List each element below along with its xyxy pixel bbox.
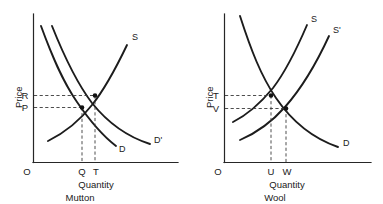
wool-chart-svg: Price T V O U W S S' D Quantity Wool: [191, 0, 383, 204]
wool-equilibrium-point-2: [284, 106, 289, 111]
mutton-curve-label-s: S: [132, 32, 138, 42]
wool-equilibrium-point-1: [269, 93, 274, 98]
wool-demand-curve-d: [240, 16, 338, 147]
mutton-curve-label-d: D: [119, 144, 126, 154]
economics-supply-demand-figure: Price R P O Q T S D D' Quantity Mutton: [0, 0, 383, 204]
wool-x-tick-u: U: [268, 166, 275, 177]
mutton-y-tick-r: R: [22, 90, 29, 101]
wool-curve-label-s-prime: S': [333, 25, 341, 35]
mutton-x-axis-title: Quantity: [78, 179, 114, 190]
wool-panel-caption: Wool: [264, 192, 285, 203]
chart-panel-wool: Price T V O U W S S' D Quantity Wool: [191, 0, 383, 204]
mutton-curve-label-d-prime: D': [154, 135, 162, 145]
mutton-chart-svg: Price R P O Q T S D D' Quantity Mutton: [0, 0, 192, 204]
wool-x-tick-w: W: [283, 166, 292, 177]
wool-y-tick-v: V: [213, 103, 220, 114]
chart-panel-mutton: Price R P O Q T S D D' Quantity Mutton: [0, 0, 192, 204]
wool-curve-label-d: D: [343, 138, 350, 148]
mutton-equilibrium-point-1: [80, 105, 85, 110]
wool-y-tick-t: T: [213, 90, 219, 101]
wool-x-axis-title: Quantity: [269, 179, 305, 190]
mutton-panel-caption: Mutton: [65, 192, 94, 203]
mutton-x-tick-t: T: [93, 166, 99, 177]
mutton-y-tick-p: P: [22, 102, 28, 113]
mutton-x-tick-q: Q: [78, 166, 85, 177]
wool-curve-label-s: S: [311, 14, 317, 24]
mutton-origin-label: O: [23, 166, 30, 177]
mutton-equilibrium-point-2: [93, 93, 98, 98]
wool-supply-curve-s: [233, 25, 307, 122]
wool-origin-label: O: [214, 166, 221, 177]
